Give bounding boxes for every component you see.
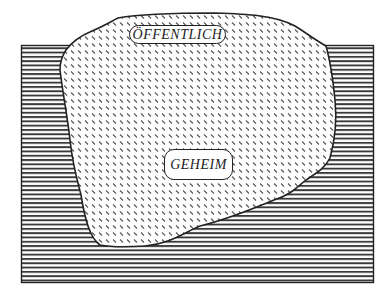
label-secret-text: GEHEIM bbox=[170, 157, 227, 173]
label-public-text: ÖFFENTLICH bbox=[133, 27, 223, 43]
label-secret: GEHEIM bbox=[164, 149, 233, 180]
label-public: ÖFFENTLICH bbox=[129, 25, 226, 44]
